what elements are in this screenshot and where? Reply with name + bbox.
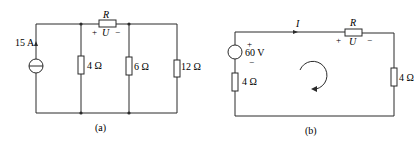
voltage-plus-b: + (336, 35, 341, 45)
resistor-4ohm-a (78, 56, 84, 74)
voltage-minus-b: − (367, 35, 372, 45)
voltage-label-a: U (102, 27, 109, 38)
resistor-4ohm-label-source: 4 Ω (242, 76, 257, 87)
voltage-minus-a: − (115, 27, 120, 37)
resistor-r-name-b: R (350, 17, 356, 28)
current-arrow-icon (293, 30, 298, 34)
resistor-12ohm-label-a: 12 Ω (181, 61, 201, 72)
resistor-12ohm-a (174, 60, 180, 77)
resistor-4ohm-label-load: 4 Ω (399, 72, 414, 83)
node-dot (79, 22, 82, 25)
clockwise-loop-arrow-icon (300, 61, 327, 92)
resistor-r-name-a: R (103, 9, 109, 20)
caption-a: (a) (95, 122, 106, 133)
node-dot (127, 22, 130, 25)
voltage-label-b: U (349, 36, 356, 47)
voltage-source-minus: − (249, 57, 254, 67)
caption-b: (b) (305, 125, 317, 136)
resistor-r-b (345, 29, 362, 36)
resistor-r-a (99, 20, 116, 27)
voltage-source-value: 60 V (245, 47, 265, 58)
wire-a-top-right (116, 24, 177, 60)
current-label: I (296, 18, 299, 29)
voltage-source-icon (228, 45, 242, 59)
resistor-4ohm-load (391, 68, 397, 86)
wire-a-bottom (36, 73, 177, 113)
wire-a-top-left (36, 24, 99, 59)
resistor-4ohm-source (232, 73, 238, 91)
resistor-6ohm-a (126, 57, 132, 75)
node-dot (79, 111, 82, 114)
resistor-4ohm-label-a: 4 Ω (87, 60, 102, 71)
voltage-plus-a: + (92, 27, 97, 37)
current-source-value: 15 A (15, 37, 34, 48)
resistor-6ohm-label-a: 6 Ω (134, 61, 149, 72)
node-dot (127, 111, 130, 114)
